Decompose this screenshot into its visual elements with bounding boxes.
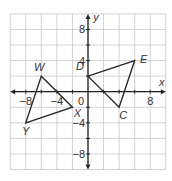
- y-axis-arrow-up-icon: [86, 14, 91, 19]
- origin-label: 0: [78, 95, 84, 107]
- x-tick-label: −4: [51, 95, 64, 107]
- x-tick-label: −8: [19, 95, 32, 107]
- y-tick-label: 8: [79, 23, 85, 35]
- x-tick-label: 8: [147, 95, 153, 107]
- axes: [10, 14, 166, 170]
- coordinate-plane: −8−4884−4−80xyWXYDEC: [0, 0, 172, 181]
- vertex-label-e: E: [140, 53, 148, 65]
- triangle-WXY: [26, 76, 73, 123]
- x-axis-label: x: [158, 76, 165, 88]
- y-axis-arrow-down-icon: [86, 165, 91, 170]
- vertex-label-c: C: [119, 109, 127, 121]
- y-tick-label: −8: [72, 148, 85, 160]
- vertex-label-x: X: [73, 107, 82, 119]
- vertex-label-d: D: [76, 60, 84, 72]
- x-axis-arrow-right-icon: [161, 89, 166, 94]
- y-axis-label: y: [92, 11, 100, 23]
- triangle-DEC: [88, 61, 135, 108]
- x-axis-arrow-left-icon: [10, 89, 15, 94]
- vertex-label-w: W: [34, 61, 46, 73]
- vertex-label-y: Y: [22, 125, 30, 137]
